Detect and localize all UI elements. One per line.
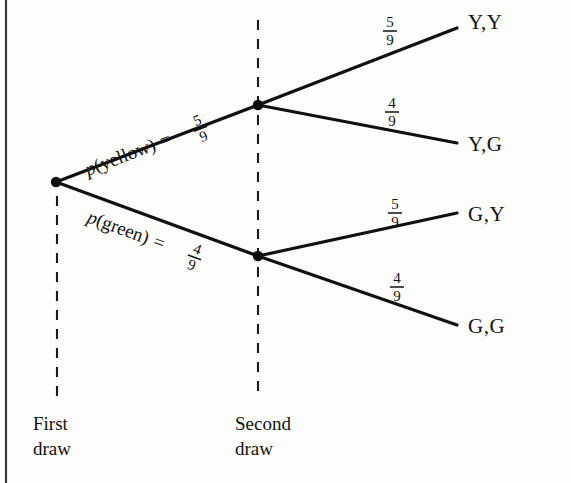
first-draw-label-line1: First: [33, 413, 69, 434]
yellow-fraction-denominator: 9: [197, 127, 210, 145]
outcome-label-gg: G,G: [468, 314, 505, 338]
yy-fraction-denominator: 9: [386, 32, 394, 48]
branch-yellow-to-yy[interactable]: [258, 28, 457, 105]
node-green[interactable]: [253, 251, 263, 261]
branch-green-to-gg[interactable]: [258, 256, 457, 325]
green-fraction-denominator: 9: [185, 256, 198, 274]
gg-fraction-numerator: 4: [393, 270, 401, 286]
outcome-label-yy: Y,Y: [468, 10, 502, 34]
gg-fraction-denominator: 9: [393, 288, 401, 304]
branch-yellow-to-yg[interactable]: [258, 105, 457, 143]
probability-tree-diagram: p(yellow)= 5 9 p(green)= 4 9 5 9: [0, 0, 571, 483]
svg-text:p(yellow)=: p(yellow)=: [80, 128, 174, 182]
yellow-expr-arg: (yellow): [91, 134, 159, 178]
green-expr-eq: =: [151, 230, 168, 253]
edge-label-gg: 4 9: [390, 270, 404, 304]
stage-label-second-draw: Second draw: [235, 413, 291, 459]
yg-fraction-numerator: 4: [388, 95, 396, 111]
green-fraction-numerator: 4: [191, 240, 204, 258]
gy-fraction-numerator: 5: [391, 196, 399, 212]
second-draw-label-line1: Second: [235, 413, 291, 434]
green-fraction: 4 9: [182, 239, 206, 275]
yy-fraction-numerator: 5: [386, 14, 394, 30]
second-draw-label-line2: draw: [235, 438, 273, 459]
edge-label-yg: 4 9: [385, 95, 399, 129]
edge-label-yy: 5 9: [383, 14, 397, 48]
first-draw-label-line2: draw: [33, 438, 71, 459]
yellow-fraction-numerator: 5: [191, 112, 204, 130]
node-root[interactable]: [51, 177, 61, 187]
node-yellow[interactable]: [253, 100, 263, 110]
edge-label-yellow: p(yellow)= 5 9: [79, 110, 213, 188]
outcome-label-gy: G,Y: [468, 202, 505, 226]
svg-text:p(green)=: p(green)=: [82, 205, 168, 254]
outcome-label-yg: Y,G: [468, 132, 502, 156]
stage-label-first-draw: First draw: [33, 413, 71, 459]
branch-green-to-gy[interactable]: [258, 213, 457, 256]
yellow-fraction: 5 9: [188, 110, 213, 146]
yg-fraction-denominator: 9: [388, 113, 396, 129]
figure-canvas: p(yellow)= 5 9 p(green)= 4 9 5 9: [0, 0, 571, 483]
gy-fraction-denominator: 9: [391, 214, 399, 230]
